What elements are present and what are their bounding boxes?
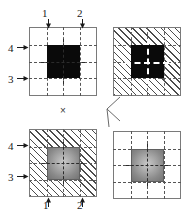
panel-bottom-right — [113, 131, 181, 199]
crosshair-vertical — [63, 142, 64, 184]
callout-label-bottom-2: 2 — [77, 200, 83, 211]
gridline-horizontal — [29, 78, 97, 79]
figure-canvas: 1 2 4 3 — [0, 0, 192, 212]
crosshair-vertical — [147, 39, 149, 85]
callout-arrow-left-3-top — [17, 75, 29, 82]
crosshair-horizontal — [41, 62, 86, 63]
callout-label-left-4-bottom: 4 — [8, 141, 14, 152]
gridline-horizontal — [29, 180, 97, 181]
crosshair-horizontal — [42, 163, 84, 164]
center-block-solid — [131, 45, 164, 79]
panel-top-right — [113, 27, 181, 96]
bracket-connector-icon — [103, 96, 121, 134]
crosshair-dark — [132, 150, 163, 181]
gridline-horizontal — [113, 182, 181, 183]
callout-arrow-top-1 — [45, 19, 52, 29]
center-block-gradient — [131, 149, 164, 182]
cross-mark: × — [60, 106, 66, 116]
crosshair-light — [131, 45, 164, 79]
callout-arrow-left-4-bottom — [17, 142, 29, 149]
gridline-horizontal — [113, 78, 181, 79]
callout-label-left-4-top: 4 — [8, 43, 14, 54]
center-block-gradient — [47, 147, 80, 180]
panel-bottom-left — [29, 129, 97, 197]
crosshair-vertical — [63, 39, 64, 85]
crosshair-dark — [48, 148, 79, 179]
crosshair-dark — [47, 45, 80, 79]
crosshair-horizontal — [126, 165, 168, 166]
callout-label-bottom-1: 1 — [43, 200, 49, 211]
panel-top-left — [29, 27, 97, 96]
crosshair-vertical — [147, 144, 148, 186]
callout-arrow-left-3-bottom — [17, 173, 29, 180]
callout-label-left-3-bottom: 3 — [8, 172, 14, 183]
callout-label-top-1: 1 — [42, 8, 48, 19]
callout-label-top-2: 2 — [77, 8, 83, 19]
callout-arrow-top-2 — [79, 19, 86, 29]
crosshair-horizontal — [125, 62, 170, 64]
center-block-solid — [47, 45, 80, 79]
callout-label-left-3-top: 3 — [8, 74, 14, 85]
callout-arrow-left-4-top — [17, 44, 29, 51]
